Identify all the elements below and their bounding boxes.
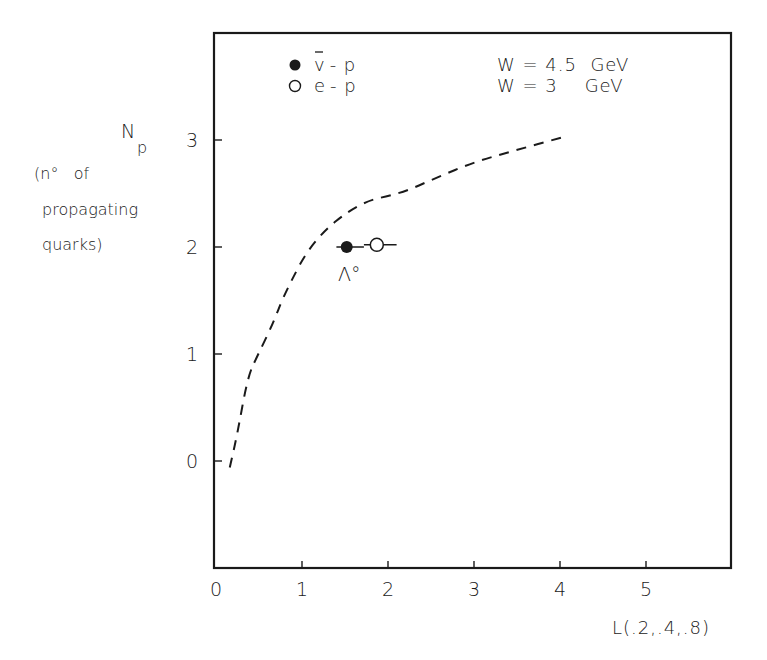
- y-label-line-3: quarks): [42, 235, 103, 254]
- x-tick-label: 1: [296, 578, 308, 600]
- legend-filled-marker: [290, 60, 301, 71]
- x-tick-label: 0: [210, 578, 222, 600]
- y-label-symbol: N: [121, 120, 135, 142]
- x-axis-label: L(.2,.4,.8): [612, 617, 710, 638]
- y-tick-label: 3: [186, 129, 198, 151]
- y-label-subscript: p: [137, 138, 147, 157]
- y-tick-label: 0: [186, 450, 198, 472]
- lambda-annotation: Λ°: [338, 263, 361, 285]
- model-dashed-curve: [230, 137, 565, 468]
- y-axis-label: N p (n° of propagating quarks): [34, 120, 147, 254]
- x-tick-label: 5: [640, 578, 652, 600]
- y-tick-label: 2: [186, 236, 198, 258]
- plot-series: [230, 137, 565, 468]
- data-point-open: [370, 238, 383, 251]
- chart-canvas: 012345 0123 N p (n° of propagating quark…: [0, 0, 767, 660]
- data-point-filled: [341, 241, 353, 253]
- legend-open-marker: [290, 81, 301, 92]
- y-label-line-1: (n° of: [34, 164, 89, 183]
- x-tick-label: 2: [382, 578, 394, 600]
- legend-condition-2: W = 3 GeV: [497, 75, 624, 96]
- y-axis: 0123: [186, 129, 222, 472]
- y-tick-label: 1: [186, 343, 198, 365]
- legend-label-e-p: e- p: [314, 75, 357, 96]
- y-label-line-2: propagating: [42, 200, 138, 219]
- x-tick-label: 4: [554, 578, 566, 600]
- legend-condition-1: W = 4.5 GeV: [497, 54, 629, 75]
- legend: v- p e- p W = 4.5 GeV W = 3 GeV: [290, 52, 630, 96]
- plot-frame: [214, 33, 731, 568]
- legend-label-nubar-p: v- p: [314, 54, 356, 75]
- x-tick-label: 3: [468, 578, 480, 600]
- x-axis: 012345: [210, 561, 652, 600]
